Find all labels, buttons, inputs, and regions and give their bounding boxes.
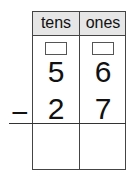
- answer-rule: [9, 123, 126, 124]
- place-value-table: tens ones 5 6 2 7: [32, 11, 126, 170]
- minuend-ones: 6: [80, 57, 126, 87]
- header-ones: ones: [80, 14, 126, 32]
- minuend-tens: 5: [33, 57, 79, 87]
- header-tens: tens: [33, 14, 79, 32]
- regroup-box-tens[interactable]: [45, 42, 67, 55]
- subtrahend-tens: 2: [33, 94, 79, 124]
- column-divider: [79, 12, 80, 169]
- subtrahend-ones: 7: [80, 94, 126, 124]
- regroup-box-ones[interactable]: [92, 42, 114, 55]
